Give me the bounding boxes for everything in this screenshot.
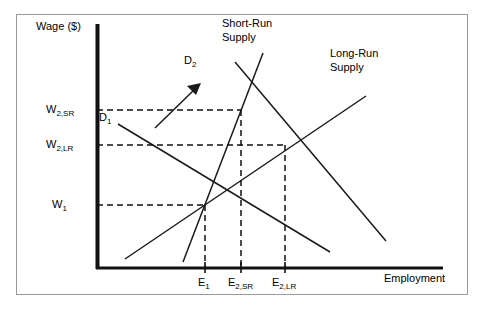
diagram-vector-layer [0, 0, 489, 311]
y-tick-label-w2sr: W2,SR [46, 103, 74, 120]
diagram-canvas: Wage ($) Employment W2,SR W2,LR W1 E1 E2… [0, 0, 489, 311]
x-tick-label-e2lr: E2,LR [272, 276, 296, 293]
demand-1-label-sub: 1 [107, 117, 111, 126]
y-tick-label-w1-sub: 1 [62, 204, 66, 213]
y-tick-label-w1: W1 [52, 198, 67, 215]
long-run-supply-curve [125, 96, 366, 259]
y-tick-label-w2sr-text: W [46, 103, 56, 115]
y-tick-label-w2lr-sub: 2,LR [56, 144, 73, 153]
demand-2-label-text: D [184, 54, 192, 66]
demand-shift-arrow-icon [155, 83, 201, 128]
demand-2-label-sub: 2 [192, 60, 196, 69]
demand-2-curve [235, 62, 386, 241]
x-tick-label-e1-sub: 1 [205, 282, 209, 291]
short-run-supply-label: Short-Run Supply [222, 17, 272, 44]
short-run-supply-label-line1: Short-Run [222, 17, 272, 31]
x-axis-label: Employment [384, 272, 445, 285]
demand-2-label: D2 [184, 54, 196, 71]
x-tick-label-e2sr: E2,SR [228, 276, 253, 293]
long-run-supply-label: Long-Run Supply [330, 47, 378, 74]
y-tick-label-w1-text: W [52, 198, 62, 210]
x-tick-label-e1: E1 [198, 276, 210, 293]
long-run-supply-label-line2: Supply [330, 61, 378, 75]
y-axis-label: Wage ($) [36, 20, 81, 33]
short-run-supply-label-line2: Supply [222, 31, 272, 45]
demand-1-curve [118, 124, 330, 252]
long-run-supply-label-line1: Long-Run [330, 47, 378, 61]
demand-1-label: D1 [99, 111, 111, 128]
y-tick-label-w2sr-sub: 2,SR [56, 109, 74, 118]
demand-1-label-text: D [99, 111, 107, 123]
x-tick-label-e2lr-sub: 2,LR [279, 282, 296, 291]
x-tick-label-e2sr-sub: 2,SR [235, 282, 253, 291]
top-edge-mask [0, 0, 489, 9]
y-tick-label-w2lr-text: W [46, 138, 56, 150]
y-tick-label-w2lr: W2,LR [46, 138, 73, 155]
